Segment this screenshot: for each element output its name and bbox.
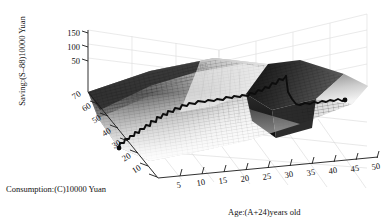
figure-3d-surface-plot: Saving:(S–88)10000 Yuan 150 100 50 70 60…	[0, 0, 388, 224]
vertical-axis-title: Saving:(S–88)10000 Yuan	[17, 0, 27, 126]
horizontal-tick-35: 35	[306, 167, 316, 178]
horizontal-tick-45: 45	[350, 163, 360, 174]
horizontal-axis-title: Age:(A+24)years old	[228, 207, 301, 217]
vertical-tick-150: 150	[56, 28, 80, 38]
vertical-axis-ticks	[82, 31, 88, 61]
depth-axis-title: Consumption:(C)10000 Yuan	[6, 184, 106, 194]
horizontal-tick-15: 15	[218, 175, 228, 186]
horizontal-tick-40: 40	[328, 165, 338, 176]
horizontal-tick-20: 20	[240, 173, 250, 184]
horizontal-tick-30: 30	[284, 169, 294, 180]
horizontal-tick-25: 25	[262, 171, 272, 182]
vertical-tick-100: 100	[56, 42, 80, 52]
vertical-tick-50: 50	[56, 56, 80, 66]
horizontal-tick-10: 10	[196, 177, 206, 188]
horizontal-tick-50: 50	[371, 161, 381, 172]
